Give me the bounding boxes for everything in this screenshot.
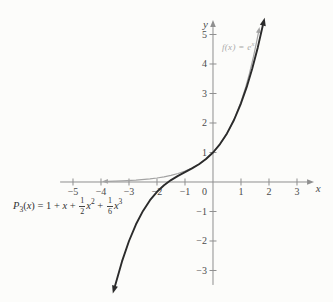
x-tick-label: 2 xyxy=(266,186,271,197)
y-tick-label: −2 xyxy=(196,235,207,246)
curve-p3 xyxy=(115,26,263,286)
fraction-numerator: 1 xyxy=(107,197,113,206)
y-tick-label: −3 xyxy=(196,265,207,276)
x-tick-label: −5 xyxy=(68,186,79,197)
y-tick-label: 4 xyxy=(202,58,207,69)
p3-label-eq: ) = 1 + xyxy=(31,200,62,211)
x-tick-label: −4 xyxy=(96,186,107,197)
y-tick-label: 3 xyxy=(202,88,207,99)
p3-label-plus1: + xyxy=(67,200,78,211)
exp-curve-label-exponent: x xyxy=(251,40,254,47)
y-axis-arrow-icon xyxy=(210,20,216,27)
origin-label: 0 xyxy=(202,186,207,197)
fraction-numerator: 1 xyxy=(79,197,85,206)
x-axis-arrow-icon xyxy=(307,179,314,185)
x-tick-label: 3 xyxy=(294,186,299,197)
x-tick-label: −1 xyxy=(180,186,191,197)
p3-label-fraction-half: 12 xyxy=(79,197,85,216)
figure-taylor-approximation: −5−4−3−2−1123−3−2−1123450xy f(x) = ex P3… xyxy=(0,0,333,302)
p3-label-fraction-sixth: 16 xyxy=(107,197,113,216)
p3-label-sup3: 3 xyxy=(119,197,123,206)
exp-curve-label-text: f(x) = e xyxy=(222,42,251,52)
curve-p3-arrow-start-icon xyxy=(112,285,118,294)
y-tick-label: 2 xyxy=(202,117,207,128)
y-tick-label: 5 xyxy=(202,29,207,40)
fraction-denominator: 6 xyxy=(107,206,113,216)
plot-svg: −5−4−3−2−1123−3−2−1123450xy xyxy=(0,0,333,302)
exp-curve-label: f(x) = ex xyxy=(222,40,255,52)
curve-exp-arrow-start-icon xyxy=(102,179,108,184)
y-tick-label: 1 xyxy=(202,147,207,158)
y-axis-label: y xyxy=(202,18,208,30)
x-tick-label: −3 xyxy=(124,186,135,197)
curve-exp-arrow-end-icon xyxy=(256,27,261,33)
fraction-denominator: 2 xyxy=(79,206,85,216)
curve-p3-arrow-end-icon xyxy=(260,18,266,26)
p3-label-plus2: + xyxy=(95,200,106,211)
x-tick-label: 1 xyxy=(238,186,243,197)
y-tick-label: −1 xyxy=(196,206,207,217)
x-axis-label: x xyxy=(315,182,321,194)
p3-curve-label: P3(x) = 1 + x + 12x2 + 16x3 xyxy=(13,197,122,216)
curve-exp xyxy=(108,33,258,181)
